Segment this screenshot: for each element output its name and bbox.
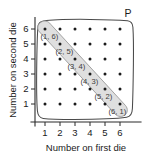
x-tick-label-4: 4 <box>87 127 92 138</box>
outcome-dot <box>74 58 77 61</box>
outcome-dot <box>59 43 62 46</box>
outcome-dot <box>104 88 107 91</box>
x-axis-title: Number on first die <box>46 142 126 153</box>
event-point-label-4-3: (4, 3) <box>81 77 99 86</box>
outcome-dot <box>89 88 92 91</box>
y-tick-label-2: 2 <box>23 83 28 94</box>
outcome-dot <box>59 73 62 76</box>
x-axis-ticks <box>45 122 120 126</box>
outcome-dot <box>104 28 107 31</box>
y-tick-label-1: 1 <box>23 98 28 109</box>
y-tick-label-4: 4 <box>23 53 28 64</box>
outcome-dot <box>44 58 47 61</box>
outcome-dot <box>74 88 77 91</box>
x-tick-label-6: 6 <box>117 127 122 138</box>
outcome-dot <box>119 103 122 106</box>
event-point-label-5-2: (5, 2) <box>95 92 113 101</box>
y-axis-title: Number on second die <box>7 22 18 118</box>
x-tick-label-3: 3 <box>72 127 77 138</box>
outcome-dot <box>44 88 47 91</box>
outcome-dot <box>104 103 107 106</box>
y-tick-label-5: 5 <box>23 38 28 49</box>
y-tick-label-6: 6 <box>23 23 28 34</box>
outcome-dot <box>89 73 92 76</box>
outcome-dot <box>59 58 62 61</box>
outcome-dot <box>119 88 122 91</box>
outcome-dot <box>59 28 62 31</box>
outcome-dot <box>44 103 47 106</box>
outcome-dot <box>59 103 62 106</box>
x-tick-label-2: 2 <box>57 127 62 138</box>
event-point-label-3-4: (3, 4) <box>68 62 86 71</box>
outcome-dot <box>59 88 62 91</box>
outcome-dot <box>44 73 47 76</box>
event-point-label-1-6: (1, 6) <box>41 32 59 41</box>
x-tick-label-1: 1 <box>42 127 47 138</box>
scatter-plot-svg: 6 5 4 3 2 1 1 2 3 4 5 6 Number on first … <box>0 0 145 157</box>
y-tick-label-3: 3 <box>23 68 28 79</box>
outcome-dot <box>89 28 92 31</box>
outcome-dot <box>104 58 107 61</box>
outcome-dot <box>74 28 77 31</box>
outcome-dot <box>74 103 77 106</box>
outcome-dot <box>44 28 47 31</box>
y-axis-ticks <box>31 29 35 104</box>
outcome-dot <box>119 58 122 61</box>
outcome-dot <box>89 58 92 61</box>
outcome-dot <box>104 73 107 76</box>
outcome-dot <box>44 43 47 46</box>
x-tick-label-5: 5 <box>102 127 107 138</box>
outcome-dot <box>74 43 77 46</box>
outcome-dot <box>89 103 92 106</box>
event-point-label-6-1: (6, 1) <box>109 107 127 116</box>
outcome-dot <box>119 43 122 46</box>
outcome-dot <box>119 73 122 76</box>
sample-space-label: P <box>124 7 131 19</box>
outcome-dot <box>119 28 122 31</box>
outcome-dot <box>74 73 77 76</box>
outcome-dot <box>89 43 92 46</box>
dice-sample-space-diagram: 6 5 4 3 2 1 1 2 3 4 5 6 Number on first … <box>0 0 145 157</box>
outcome-dot <box>104 43 107 46</box>
event-point-label-2-5: (2, 5) <box>56 47 74 56</box>
